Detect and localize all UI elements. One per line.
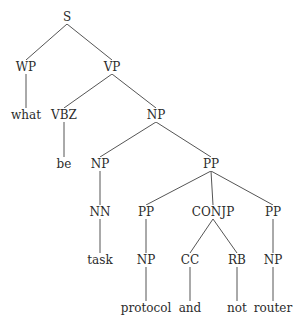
tree-edges [0, 0, 300, 326]
node-nn: NN [89, 205, 112, 219]
tree-edge [146, 171, 211, 205]
node-s: S [62, 10, 72, 24]
tree-edge [156, 122, 211, 157]
node-np-router: NP [263, 253, 284, 267]
tree-edge [190, 219, 213, 253]
word-task: task [86, 253, 113, 267]
node-wp: WP [15, 60, 37, 74]
tree-edge [67, 24, 112, 60]
node-vp: VP [103, 60, 122, 74]
word-not: not [226, 301, 248, 315]
tree-edge [213, 219, 237, 253]
node-pp: PP [202, 157, 220, 171]
word-router: router [253, 301, 293, 315]
node-pp-right: PP [264, 205, 282, 219]
node-conjp: CONJP [191, 205, 235, 219]
tree-edge [112, 74, 156, 108]
node-np: NP [146, 108, 167, 122]
parse-tree: S WP VP what VBZ NP be NP PP NN PP CONJP… [0, 0, 300, 326]
tree-edge [26, 24, 67, 60]
node-vbz: VBZ [50, 108, 78, 122]
node-np-protocol: NP [136, 253, 157, 267]
tree-edge [211, 171, 213, 205]
word-protocol: protocol [120, 301, 172, 315]
word-be: be [56, 157, 73, 171]
tree-edge [64, 74, 112, 108]
node-pp-left: PP [137, 205, 155, 219]
word-and: and [178, 301, 203, 315]
node-cc: CC [180, 253, 200, 267]
word-what: what [10, 108, 42, 122]
node-np-left: NP [90, 157, 111, 171]
node-rb: RB [227, 253, 247, 267]
tree-edge [100, 122, 156, 157]
tree-edge [211, 171, 273, 205]
